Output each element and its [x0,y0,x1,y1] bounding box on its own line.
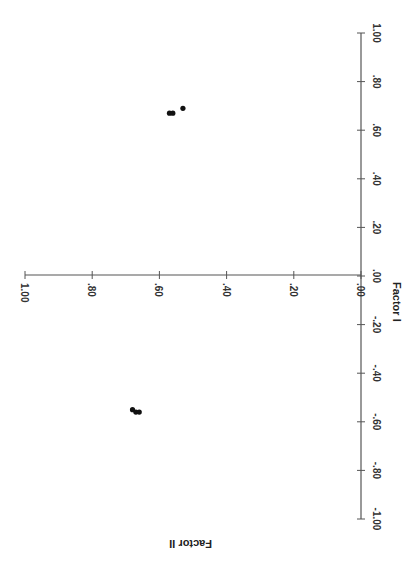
factor-ii-tick-label: .60 [153,283,164,297]
factor-ii-tick-label: .00 [355,283,366,297]
factor-i-tick-label: .80 [371,75,382,89]
factor-i-tick-label: 1.00 [371,23,382,43]
factor-i-tick-label: -.60 [371,413,382,431]
factor-i-tick-label: -1.00 [371,508,382,531]
factor-i-axis-title: Factor I [391,282,403,322]
scatter-chart: 1.00.80.60.40.20.00-.20-.40-.60-.80-1.00… [0,0,419,581]
factor-i-tick-label: .60 [371,123,382,137]
data-point [137,409,142,414]
factor-i-tick-label: -.40 [371,365,382,383]
factor-i-tick-label: .00 [371,269,382,283]
data-point [170,111,175,116]
factor-ii-tick-label: 1.00 [19,283,30,303]
factor-ii-tick-label: .20 [288,283,299,297]
factor-i-tick-label: .20 [371,220,382,234]
factor-i-tick-label: -.20 [371,316,382,334]
data-points [130,106,186,415]
factor-ii-axis: 1.00.80.60.40.20.00 [19,271,366,303]
factor-i-tick-label: -.80 [371,462,382,480]
factor-ii-axis-title: Factor II [169,538,212,550]
data-point [180,106,185,111]
factor-ii-tick-label: .80 [86,283,97,297]
factor-i-tick-label: .40 [371,172,382,186]
factor-ii-tick-label: .40 [221,283,232,297]
